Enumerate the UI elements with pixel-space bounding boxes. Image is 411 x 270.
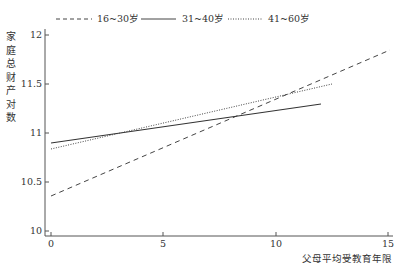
legend: 16~30岁 31~40岁 41~60岁 [56, 13, 310, 24]
plot-lines [51, 50, 390, 196]
svg-text:5: 5 [160, 238, 166, 249]
svg-text:0: 0 [48, 238, 54, 249]
chart: 16~30岁 31~40岁 41~60岁 12 11.5 11 10.5 10 … [0, 0, 411, 270]
series-16-30-line [51, 50, 390, 196]
legend-label-31-40: 31~40岁 [182, 13, 224, 24]
y-tick-labels: 12 11.5 11 10.5 10 [21, 29, 42, 236]
svg-text:10.5: 10.5 [21, 176, 42, 187]
x-tick-labels: 0 5 10 15 [48, 238, 394, 249]
svg-text:11.5: 11.5 [21, 78, 42, 89]
svg-text:15: 15 [382, 238, 394, 249]
svg-text:10: 10 [30, 225, 42, 236]
x-axis-label: 父母平均受教育年限 [302, 253, 392, 264]
svg-text:10: 10 [270, 238, 282, 249]
legend-label-41-60: 41~60岁 [268, 13, 310, 24]
series-31-40-line [51, 104, 321, 143]
series-41-60-line [51, 84, 332, 149]
legend-label-16-30: 16~30岁 [97, 13, 139, 24]
svg-text:11: 11 [30, 127, 42, 138]
axes [45, 29, 393, 236]
svg-text:12: 12 [30, 29, 42, 40]
